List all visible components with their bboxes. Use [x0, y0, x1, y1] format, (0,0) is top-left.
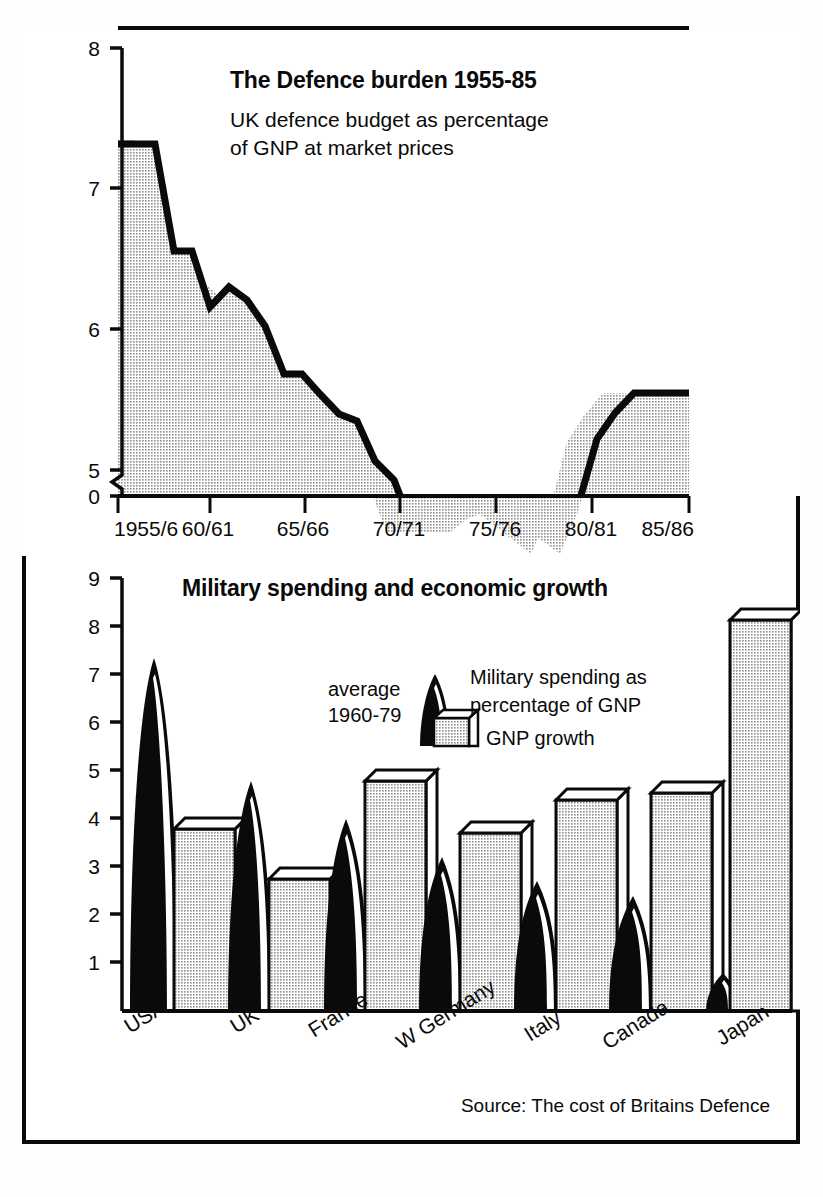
usa-gnp-bar	[174, 829, 235, 1011]
japan-gnp-bar-top	[730, 609, 800, 620]
canada-gnp-bar	[651, 793, 712, 1011]
italy-gnp-bar-top	[556, 789, 628, 800]
bot-ytick-4: 4	[88, 807, 100, 830]
bottom-chart-title: Military spending and economic growth	[182, 575, 608, 601]
italy-gnp-bar	[556, 800, 617, 1011]
bottom-chart-legend: average 1960-79 Military spending as per…	[328, 666, 647, 749]
uk-gnp-bar-top	[269, 868, 341, 879]
bot-ytick-9: 9	[88, 567, 100, 590]
france-gnp-bar	[365, 781, 426, 1011]
source-note: Source: The cost of Britains Defence	[461, 1095, 770, 1116]
military-spending-chart: 9 8 7 6 5 4 3 2 1	[22, 26, 800, 1144]
legend-gnp-label: GNP growth	[486, 727, 595, 749]
bot-ytick-3: 3	[88, 855, 100, 878]
legend-military-line2: percentage of GNP	[470, 694, 641, 716]
canada-gnp-bar-top	[651, 782, 723, 793]
france-gnp-bar-top	[365, 770, 437, 781]
group-usa	[130, 658, 246, 1011]
bottom-chart-body: 9 8 7 6 5 4 3 2 1	[88, 567, 800, 1116]
wgermany-gnp-bar-top	[460, 822, 532, 833]
legend-average-line2: 1960-79	[328, 704, 401, 726]
bot-ytick-2: 2	[88, 903, 100, 926]
bot-ytick-8: 8	[88, 615, 100, 638]
usa-gnp-bar-top	[174, 818, 246, 829]
bot-ytick-5: 5	[88, 759, 100, 782]
bot-ytick-7: 7	[88, 663, 100, 686]
figure-page: 8 7 6 5 0 1955/6 60/61 65/66 70/71 75/76…	[0, 0, 823, 1197]
legend-gnp-bar-icon	[434, 718, 469, 746]
group-uk	[228, 781, 341, 1011]
uk-gnp-bar	[269, 879, 330, 1011]
japan-gnp-bar	[730, 620, 791, 1011]
bot-ytick-6: 6	[88, 711, 100, 734]
legend-average-line1: average	[328, 678, 400, 700]
legend-military-line1: Military spending as	[470, 666, 647, 688]
bot-ytick-1: 1	[88, 951, 100, 974]
bottom-y-axis	[110, 578, 122, 1011]
